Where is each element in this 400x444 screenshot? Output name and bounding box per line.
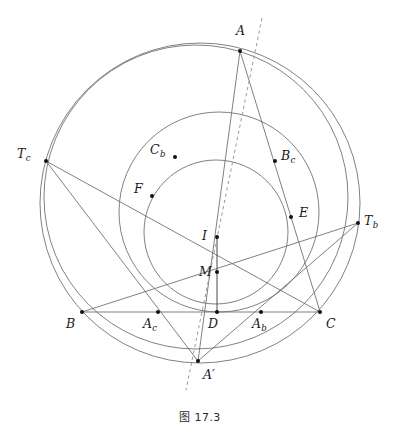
point-marker-aprime xyxy=(196,359,200,363)
second-circle xyxy=(44,45,348,349)
circumcircle xyxy=(40,43,360,363)
point-marker-tc xyxy=(44,159,48,163)
point-label-a: A xyxy=(236,25,245,38)
point-marker-c xyxy=(318,310,322,314)
point-label-tb: Tb xyxy=(364,215,378,228)
point-marker-a xyxy=(238,49,242,53)
point-label-ac: Ac xyxy=(143,318,157,331)
point-label-f: F xyxy=(134,183,143,196)
point-marker-cb xyxy=(173,155,177,159)
point-marker-f xyxy=(150,194,154,198)
point-label-cb: Cb xyxy=(150,144,165,157)
point-marker-b xyxy=(80,310,84,314)
point-marker-tb xyxy=(356,221,360,225)
point-marker-m xyxy=(215,270,219,274)
point-label-e: E xyxy=(299,207,308,220)
point-marker-ac xyxy=(156,310,160,314)
geometry-canvas xyxy=(0,0,400,444)
point-marker-e xyxy=(289,215,293,219)
figure-container: ABCAcAbDA′TcTbCbBcFEIM 图 17.3 xyxy=(0,0,400,444)
point-marker-d xyxy=(215,310,219,314)
point-label-tc: Tc xyxy=(17,148,30,161)
point-label-d: D xyxy=(208,318,218,331)
chord-tb-aprime xyxy=(198,223,358,361)
side-ab xyxy=(198,51,240,361)
point-markers-group xyxy=(44,49,360,363)
chord-tc-c xyxy=(46,161,320,312)
point-label-bc: Bc xyxy=(281,150,295,163)
chord-tc-aprime xyxy=(46,161,198,361)
point-label-m: M xyxy=(199,266,212,279)
point-label-i: I xyxy=(202,230,207,243)
point-marker-bc xyxy=(273,159,277,163)
dashed-axis-line xyxy=(186,18,262,390)
point-label-aprime: A′ xyxy=(203,369,215,382)
side-ac xyxy=(240,51,319,309)
chord-tb-b xyxy=(82,223,358,312)
figure-caption: 图 17.3 xyxy=(0,408,400,424)
point-label-ab: Ab xyxy=(252,318,267,331)
point-marker-i xyxy=(215,235,219,239)
point-label-c: C xyxy=(326,318,336,331)
circles-group xyxy=(40,43,360,363)
point-label-b: B xyxy=(66,318,75,331)
point-marker-ab xyxy=(259,310,263,314)
